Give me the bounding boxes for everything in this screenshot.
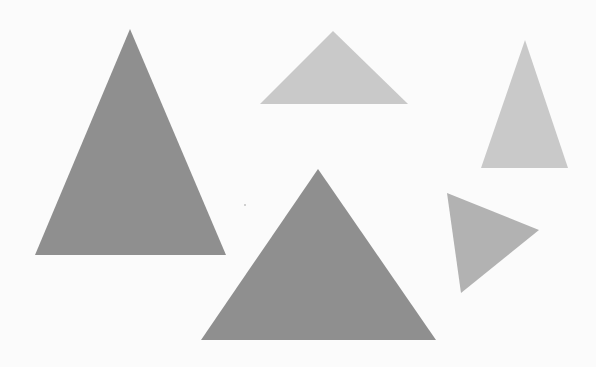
triangle-large-left	[35, 29, 226, 255]
diagram-canvas	[0, 0, 596, 367]
triangle-top-middle	[260, 31, 408, 104]
triangle-top-right	[481, 40, 568, 168]
triangle-large-bottom	[201, 169, 436, 340]
speck-dot	[244, 204, 246, 206]
triangle-rotated-right	[447, 193, 539, 293]
triangles-svg	[0, 0, 596, 367]
